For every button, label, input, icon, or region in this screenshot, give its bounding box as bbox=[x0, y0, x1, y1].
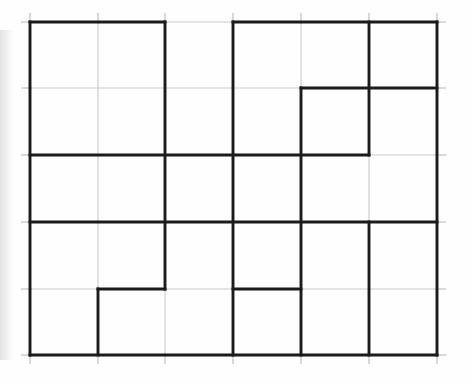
grid-drawing bbox=[0, 0, 470, 386]
heavy-partition-layer bbox=[30, 22, 437, 355]
puzzle-canvas bbox=[0, 0, 470, 386]
